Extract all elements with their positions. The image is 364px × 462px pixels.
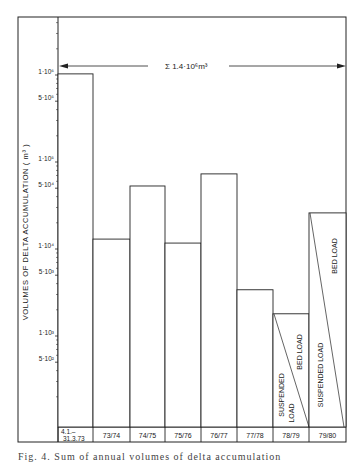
- arrow-right-icon: [337, 64, 346, 69]
- bar-4-1-31-3-73: [58, 74, 93, 427]
- bar-76-77: [201, 174, 237, 427]
- category-label: 76/77: [210, 432, 228, 439]
- y-tick-label: 1·10³: [39, 329, 55, 336]
- total-label: Σ 1.4·10⁶m³: [165, 62, 208, 71]
- category-label: 74/75: [139, 432, 157, 439]
- category-label: 78/79: [282, 432, 300, 439]
- bar-77-78: [237, 290, 273, 427]
- category-label-line1: 4.1.–: [61, 428, 76, 435]
- y-tick-label: 5·10²: [39, 355, 55, 362]
- category-labels: 4.1.–31.3.7373/7474/7575/7676/7777/7878/…: [58, 427, 336, 442]
- bar-74-75: [130, 186, 165, 427]
- bed-load-label-7980: BED LOAD: [331, 238, 338, 273]
- suspended-label-7879-line1: SUSPENDED: [278, 373, 285, 417]
- bars: [58, 74, 346, 427]
- y-tick-label: 1·10⁴: [38, 242, 54, 249]
- y-tick-label: 5·10³: [39, 268, 55, 275]
- total-span-annotation: Σ 1.4·10⁶m³: [59, 62, 346, 71]
- arrow-left-icon: [59, 64, 68, 69]
- category-label: 73/74: [103, 432, 121, 439]
- y-ticks: 1·10⁶5·10⁵1·10⁵5·10⁴1·10⁴5·10³1·10³5·10²: [38, 23, 58, 397]
- y-axis-label: VOLUMES OF DELTA ACCUMULATION ( m³ ): [21, 144, 30, 321]
- category-label-line2: 31.3.73: [63, 435, 85, 442]
- suspended-load-label-7980: SUSPENDED LOAD: [317, 343, 324, 408]
- figure-caption: Fig. 4. Sum of annual volumes of delta a…: [18, 451, 281, 462]
- y-tick-label: 1·10⁶: [38, 68, 54, 75]
- bed-load-label-7879: BED LOAD: [296, 334, 303, 369]
- y-tick-label: 5·10⁵: [38, 94, 54, 101]
- suspended-label-7879-line2: LOAD: [288, 403, 295, 422]
- delta-accumulation-chart: VOLUMES OF DELTA ACCUMULATION ( m³ ) 1·1…: [0, 0, 364, 462]
- bar-79-80: [309, 213, 346, 427]
- bar-73-74: [93, 239, 130, 427]
- category-label: 77/78: [246, 432, 264, 439]
- category-label: 75/76: [174, 432, 192, 439]
- bar-75-76: [165, 243, 201, 427]
- y-tick-label: 1·10⁵: [38, 155, 54, 162]
- y-tick-label: 5·10⁴: [38, 181, 54, 188]
- category-label: 79/80: [319, 432, 337, 439]
